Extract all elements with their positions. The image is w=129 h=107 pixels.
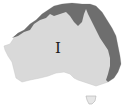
australia-map [0, 0, 129, 107]
zone-label: I [55, 41, 61, 56]
tasmania [86, 96, 96, 104]
